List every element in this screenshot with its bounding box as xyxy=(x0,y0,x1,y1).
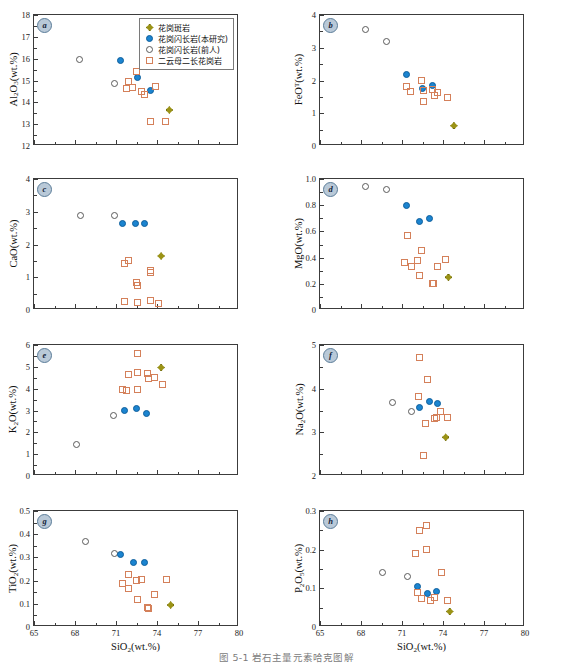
x-tick-label: 74 xyxy=(153,628,162,638)
plot-area-h xyxy=(320,511,523,625)
y-tick-label: 0.3 xyxy=(305,506,316,516)
legend-item[interactable]: 花岗闪长岩(本研究) xyxy=(144,33,228,44)
y-tick xyxy=(320,113,324,114)
x-tick xyxy=(484,621,485,625)
y-tick xyxy=(320,15,324,16)
data-point xyxy=(434,263,441,270)
data-point xyxy=(444,597,451,604)
circle-filled-blue-icon xyxy=(144,33,156,44)
y-tick xyxy=(320,258,324,259)
plot-area-e xyxy=(34,345,237,474)
y-minor-tick xyxy=(34,546,37,547)
legend-item[interactable]: 花岗闪长岩(前人) xyxy=(144,44,228,55)
data-point xyxy=(379,569,386,576)
y-minor-tick xyxy=(34,421,37,422)
y-minor-tick xyxy=(320,97,323,98)
data-point xyxy=(110,412,117,419)
x-tick xyxy=(484,470,485,474)
y-tick xyxy=(320,588,324,589)
x-tick xyxy=(402,140,403,144)
plot-panel-c: c01234 xyxy=(33,178,238,309)
y-tick-label: 5 xyxy=(26,362,30,372)
y-tick-label: 13 xyxy=(22,119,31,129)
data-point xyxy=(424,376,431,383)
y-tick xyxy=(320,432,324,433)
y-minor-tick xyxy=(320,569,323,570)
x-tick xyxy=(75,621,76,625)
y-tick xyxy=(320,81,324,82)
data-point xyxy=(167,601,175,609)
data-point xyxy=(119,220,126,227)
data-point xyxy=(151,374,158,381)
panel-cell-g: TiO2(wt.%)g00.10.20.30.40.5656871747780S… xyxy=(0,500,286,648)
x-tick xyxy=(157,470,158,474)
x-minor-tick xyxy=(137,472,138,475)
y-tick-label: 5 xyxy=(312,340,316,350)
x-tick xyxy=(34,621,35,625)
y-tick-label: 4 xyxy=(312,10,316,20)
x-tick-label: 71 xyxy=(112,628,121,638)
x-tick xyxy=(75,304,76,308)
data-point xyxy=(125,571,132,578)
y-tick xyxy=(34,212,38,213)
y-minor-tick xyxy=(34,261,37,262)
data-point xyxy=(412,550,419,557)
data-point xyxy=(407,88,414,95)
x-tick xyxy=(320,621,321,625)
x-minor-tick xyxy=(219,306,220,309)
y-tick-label: 1.0 xyxy=(305,174,316,184)
plot-panel-e: e0123456 xyxy=(33,344,238,475)
x-minor-tick xyxy=(55,472,56,475)
x-tick-label: 74 xyxy=(439,628,448,638)
y-tick xyxy=(320,284,324,285)
panel-label-a: a xyxy=(37,18,52,33)
data-point xyxy=(157,252,165,260)
data-point xyxy=(133,405,140,412)
x-tick xyxy=(361,304,362,308)
y-tick xyxy=(34,367,38,368)
x-minor-tick xyxy=(382,142,383,145)
y-minor-tick xyxy=(320,454,323,455)
data-point xyxy=(151,591,158,598)
harker-diagram-figure: Al2O3(wt.%)a12131415161718花岗斑岩花岗闪长岩(本研究)… xyxy=(0,0,573,672)
data-point xyxy=(129,84,136,91)
data-point xyxy=(422,420,429,427)
legend-item[interactable]: 二云母二长花岗岩 xyxy=(144,55,228,66)
y-minor-tick xyxy=(34,228,37,229)
x-minor-tick xyxy=(178,623,179,626)
data-point xyxy=(111,80,118,87)
data-point xyxy=(430,280,437,287)
plot-panel-h: h00.10.20.3656871747780 xyxy=(319,510,524,626)
data-point xyxy=(121,407,128,414)
x-minor-tick xyxy=(96,623,97,626)
y-tick-label: 4 xyxy=(26,174,30,184)
x-minor-tick xyxy=(505,306,506,309)
x-minor-tick xyxy=(341,472,342,475)
data-point xyxy=(134,369,141,376)
data-point xyxy=(125,257,132,264)
data-point xyxy=(383,38,390,45)
panel-cell-b: FeOT(wt.%)b01234 xyxy=(286,0,573,168)
x-minor-tick xyxy=(464,623,465,626)
data-point xyxy=(138,576,145,583)
y-minor-tick xyxy=(320,608,323,609)
y-minor-tick xyxy=(34,70,37,71)
data-point xyxy=(77,212,84,219)
data-point xyxy=(403,71,410,78)
y-tick-label: 0.4 xyxy=(305,253,316,263)
data-point xyxy=(134,386,141,393)
y-minor-tick xyxy=(34,135,37,136)
x-tick-label: 68 xyxy=(71,628,80,638)
y-tick-label: 14 xyxy=(22,97,31,107)
y-axis-title-h: P2O5(wt.%) xyxy=(293,543,306,592)
x-tick xyxy=(484,304,485,308)
x-minor-tick xyxy=(423,472,424,475)
plot-area-c xyxy=(34,179,237,308)
data-point xyxy=(162,118,169,125)
legend-item[interactable]: 花岗斑岩 xyxy=(144,22,228,33)
y-tick xyxy=(34,15,38,16)
data-point xyxy=(125,371,132,378)
y-tick xyxy=(34,102,38,103)
data-point xyxy=(383,186,390,193)
x-minor-tick xyxy=(137,142,138,145)
